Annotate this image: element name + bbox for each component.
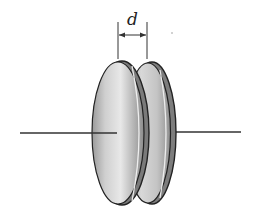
arrowhead-right-icon (140, 33, 146, 38)
separation-label: d (127, 9, 138, 29)
arrowhead-left-icon (119, 33, 125, 38)
separation-dimension: d (118, 9, 147, 59)
capacitor-diagram: d (0, 0, 253, 218)
speck (171, 32, 173, 34)
